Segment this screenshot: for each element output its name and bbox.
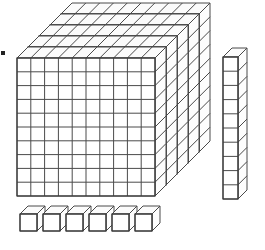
cube-front-face (43, 214, 60, 231)
ones-cube (66, 206, 91, 231)
base-ten-blocks-figure (0, 0, 265, 250)
hundreds-flats-group (17, 3, 210, 196)
ones-cube (89, 206, 114, 231)
ones-cube (135, 206, 160, 231)
cube-front-face (135, 214, 152, 231)
ones-cubes-group (20, 206, 160, 231)
ones-cube (20, 206, 45, 231)
ones-cube (43, 206, 68, 231)
ones-cube (112, 206, 137, 231)
cube-front-face (20, 214, 37, 231)
cube-front-face (89, 214, 106, 231)
blocks-canvas (0, 0, 265, 250)
cube-front-face (66, 214, 83, 231)
hundreds-flat (17, 47, 166, 196)
cube-front-face (112, 214, 129, 231)
tens-rod-group (223, 48, 247, 199)
